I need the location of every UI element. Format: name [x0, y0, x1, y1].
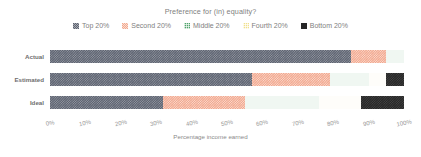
bar-segment-estimated-top-20[interactable]	[50, 73, 252, 86]
stacked-bar-chart: Preference for (in) equality? Top 20% Se…	[0, 0, 421, 157]
x-axis-tick-100: 100%	[396, 118, 412, 127]
y-axis-labels: Actual Estimated Ideal	[0, 48, 47, 115]
legend-swatch-middle-20-icon	[184, 23, 190, 29]
bar-segment-estimated-second-20[interactable]	[252, 73, 330, 86]
bar-row-estimated	[50, 73, 404, 86]
x-axis-title: Percentage income earned	[0, 133, 421, 140]
legend-swatch-top-20-icon	[73, 23, 79, 29]
bar-row-ideal	[50, 96, 404, 109]
legend-label-top-20: Top 20%	[82, 22, 109, 29]
bar-segment-estimated-bottom-20[interactable]	[386, 73, 404, 86]
x-axis-tick-50: 50%	[220, 119, 233, 127]
bar-segment-ideal-second-20[interactable]	[163, 96, 244, 109]
legend-label-middle-20: Middle 20%	[193, 22, 230, 29]
bar-segment-estimated-fourth-20[interactable]	[369, 73, 387, 86]
legend-item-fourth-20[interactable]: Fourth 20%	[243, 22, 288, 29]
legend-item-middle-20[interactable]: Middle 20%	[184, 22, 230, 29]
legend-item-second-20[interactable]: Second 20%	[122, 22, 171, 29]
legend-swatch-second-20-icon	[122, 23, 128, 29]
x-axis-ticks: 0%10%20%30%40%50%60%70%80%90%100%	[50, 120, 404, 130]
legend-item-top-20[interactable]: Top 20%	[73, 22, 109, 29]
x-axis-tick-40: 40%	[185, 119, 198, 127]
bar-segment-ideal-middle-20[interactable]	[245, 96, 319, 109]
bar-segment-actual-top-20[interactable]	[50, 50, 351, 63]
x-axis-tick-10: 10%	[79, 119, 92, 127]
bar-segment-ideal-bottom-20[interactable]	[361, 96, 403, 109]
x-axis-tick-60: 60%	[256, 119, 269, 127]
y-axis-label-ideal: Ideal	[0, 99, 44, 106]
bar-segment-actual-middle-20[interactable]	[386, 50, 404, 63]
chart-legend: Top 20% Second 20% Middle 20% Fourth 20%…	[0, 22, 421, 29]
bar-segment-ideal-fourth-20[interactable]	[319, 96, 361, 109]
legend-swatch-bottom-20-icon	[301, 23, 307, 29]
x-axis-tick-80: 80%	[327, 119, 340, 127]
x-axis-tick-20: 20%	[114, 119, 127, 127]
y-axis-label-actual: Actual	[0, 53, 44, 60]
legend-label-fourth-20: Fourth 20%	[252, 22, 288, 29]
x-axis-tick-70: 70%	[291, 119, 304, 127]
chart-title: Preference for (in) equality?	[0, 7, 421, 16]
legend-label-bottom-20: Bottom 20%	[310, 22, 348, 29]
bar-segment-ideal-top-20[interactable]	[50, 96, 163, 109]
bar-segment-estimated-middle-20[interactable]	[330, 73, 369, 86]
legend-swatch-fourth-20-icon	[243, 23, 249, 29]
x-axis-tick-0: 0%	[45, 119, 55, 127]
legend-label-second-20: Second 20%	[131, 22, 171, 29]
y-axis-label-estimated: Estimated	[0, 76, 44, 83]
bar-segment-actual-second-20[interactable]	[351, 50, 386, 63]
x-axis-tick-90: 90%	[362, 119, 375, 127]
x-axis-tick-30: 30%	[150, 119, 163, 127]
plot-area	[50, 48, 404, 115]
bar-row-actual	[50, 50, 404, 63]
legend-item-bottom-20[interactable]: Bottom 20%	[301, 22, 348, 29]
